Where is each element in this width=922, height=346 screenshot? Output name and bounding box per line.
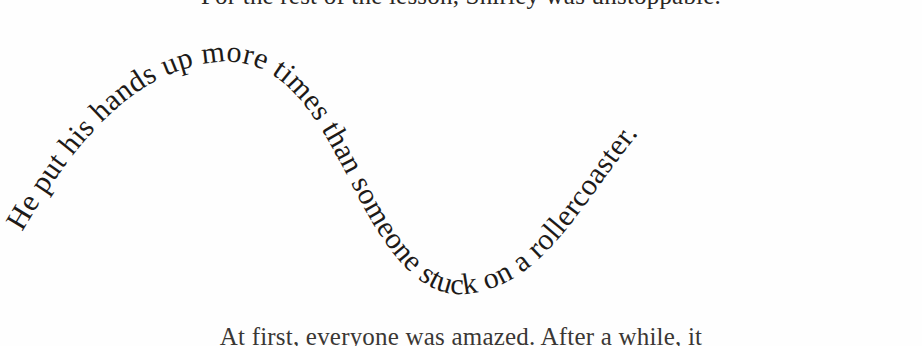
curved-text-svg: He put his hands up more times than some… xyxy=(0,0,922,346)
body-text-line-below: At first, everyone was amazed. After a w… xyxy=(0,322,922,346)
curved-sentence: He put his hands up more times than some… xyxy=(0,0,922,346)
curved-text-content: He put his hands up more times than some… xyxy=(0,34,643,300)
curved-text-path-run: He put his hands up more times than some… xyxy=(0,34,643,300)
document-page: For the rest of the lesson, Shirley was … xyxy=(0,0,922,346)
